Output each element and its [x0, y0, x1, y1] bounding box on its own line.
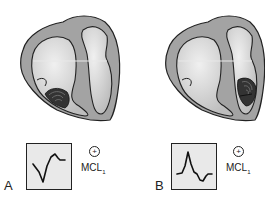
lead-label-b: MCL1	[226, 162, 250, 175]
ecg-trace-box-a	[26, 143, 72, 190]
ecg-waveform-a	[27, 144, 70, 188]
positive-electrode-icon-a: +	[89, 146, 100, 157]
heart-illustration-a	[15, 10, 125, 125]
ecg-waveform-b	[172, 144, 215, 188]
lead-label-a: MCL1	[81, 162, 105, 175]
heart-illustration-b	[160, 10, 265, 125]
positive-electrode-icon-b: +	[233, 146, 244, 157]
panel-label-a: A	[4, 178, 13, 193]
panel-label-b: B	[155, 178, 164, 193]
ecg-trace-box-b	[171, 143, 217, 190]
